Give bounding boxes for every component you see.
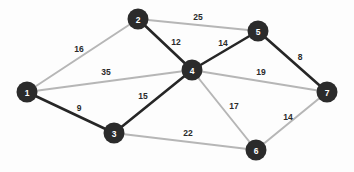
- edge-weight-label: 25: [193, 12, 203, 22]
- weighted-graph-figure: 1234567 1635925121481915172214: [0, 0, 354, 172]
- graph-node-3[interactable]: 3: [104, 123, 125, 144]
- edge-weight-label: 17: [229, 101, 239, 111]
- edge-weight-label: 22: [183, 128, 193, 138]
- graph-edge: [138, 19, 192, 70]
- edge-weight-label: 35: [101, 67, 111, 77]
- graph-edge: [114, 133, 256, 150]
- node-layer: 1234567: [17, 9, 338, 161]
- graph-node-5[interactable]: 5: [248, 21, 269, 42]
- node-disc: [246, 140, 267, 161]
- edge-weight-label: 8: [298, 52, 303, 62]
- node-disc: [128, 9, 149, 30]
- graph-node-6[interactable]: 6: [246, 140, 267, 161]
- edge-weight-label: 9: [77, 103, 82, 113]
- graph-edge: [192, 70, 256, 150]
- node-disc: [317, 82, 338, 103]
- edge-weight-label: 19: [256, 67, 266, 77]
- graph-canvas: 1234567 1635925121481915172214: [0, 0, 354, 172]
- graph-edge: [256, 92, 327, 150]
- edge-weight-label: 16: [74, 44, 84, 54]
- node-disc: [104, 123, 125, 144]
- graph-edge: [138, 19, 258, 31]
- graph-edge: [27, 19, 138, 92]
- node-disc: [17, 82, 38, 103]
- edge-layer: [27, 19, 327, 150]
- edge-weight-label: 14: [218, 38, 228, 48]
- graph-node-7[interactable]: 7: [317, 82, 338, 103]
- graph-edge: [27, 92, 114, 133]
- graph-node-4[interactable]: 4: [182, 60, 203, 81]
- node-disc: [248, 21, 269, 42]
- graph-node-2[interactable]: 2: [128, 9, 149, 30]
- edge-weight-label: 15: [138, 91, 148, 101]
- edge-weight-label: 12: [171, 37, 181, 47]
- graph-edge: [192, 31, 258, 70]
- node-disc: [182, 60, 203, 81]
- graph-node-1[interactable]: 1: [17, 82, 38, 103]
